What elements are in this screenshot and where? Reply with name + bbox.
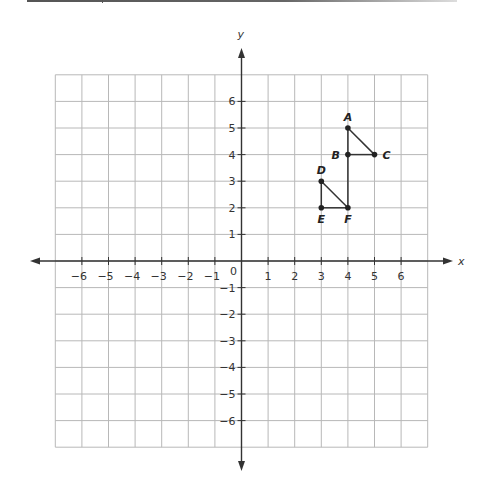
triangle-edge — [348, 128, 375, 155]
point-e — [319, 205, 325, 211]
point-label-a: A — [343, 111, 353, 124]
x-tick-label: −3 — [151, 270, 167, 283]
y-tick-label: 4 — [229, 149, 236, 162]
x-tick-label: −4 — [124, 270, 140, 283]
x-tick-label: 1 — [265, 270, 272, 283]
x-tick-label: −1 — [204, 270, 220, 283]
x-tick-label: −6 — [71, 270, 87, 283]
x-axis-left-arrow-icon — [30, 258, 40, 265]
x-tick-label: −2 — [177, 270, 193, 283]
x-tick-label: 2 — [291, 270, 298, 283]
y-tick-label: −6 — [219, 415, 235, 428]
y-tick-label: 6 — [229, 95, 236, 108]
point-label-b: B — [332, 149, 340, 162]
y-tick-label: 3 — [229, 175, 236, 188]
x-axis-label: x — [457, 255, 465, 268]
triangle-edge — [321, 181, 348, 208]
y-tick-label: 2 — [229, 202, 236, 215]
point-a — [345, 125, 351, 131]
point-label-c: C — [383, 149, 391, 162]
x-axis-right-arrow-icon — [443, 258, 453, 265]
y-axis-down-arrow-icon — [238, 461, 245, 471]
point-label-f: F — [344, 213, 352, 226]
y-tick-label: −5 — [219, 388, 235, 401]
point-label-e: E — [318, 213, 326, 226]
point-f — [345, 205, 351, 211]
point-b — [345, 152, 351, 158]
point-c — [372, 152, 378, 158]
y-tick-label: −3 — [219, 335, 235, 348]
y-tick-label: −4 — [219, 361, 235, 374]
point-d — [319, 178, 325, 184]
x-tick-label: −5 — [97, 270, 113, 283]
origin-label: 0 — [230, 265, 237, 278]
y-axis-up-arrow-icon — [238, 48, 245, 58]
point-label-d: D — [317, 164, 326, 177]
x-tick-label: 5 — [371, 270, 378, 283]
y-axis-label: y — [237, 28, 245, 41]
x-tick-label: 6 — [398, 270, 405, 283]
x-tick-label: 4 — [344, 270, 351, 283]
y-tick-label: 1 — [229, 228, 236, 241]
x-tick-label: 3 — [318, 270, 325, 283]
y-tick-label: −1 — [219, 282, 235, 295]
y-tick-label: 5 — [229, 122, 236, 135]
coordinate-plane: xy−6−5−4−3−2−1123456−6−5−4−3−2−11234560A… — [0, 0, 485, 490]
y-tick-label: −2 — [219, 308, 235, 321]
